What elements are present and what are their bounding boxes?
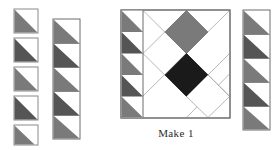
right-hst-strip xyxy=(243,10,270,130)
loose-hst-column xyxy=(14,9,38,145)
quilt-diagram-canvas: Make 1 xyxy=(0,0,279,150)
block-caption: Make 1 xyxy=(158,127,194,139)
left-hst-strip xyxy=(53,19,80,139)
assembled-quilt-block xyxy=(121,10,230,118)
list-item xyxy=(14,67,38,91)
list-item xyxy=(14,96,38,120)
block-left-hst-strip xyxy=(121,10,143,118)
quilt-diagram-root: Make 1 xyxy=(0,0,279,150)
list-item xyxy=(14,9,38,33)
list-item xyxy=(14,38,38,62)
list-item xyxy=(14,125,38,145)
